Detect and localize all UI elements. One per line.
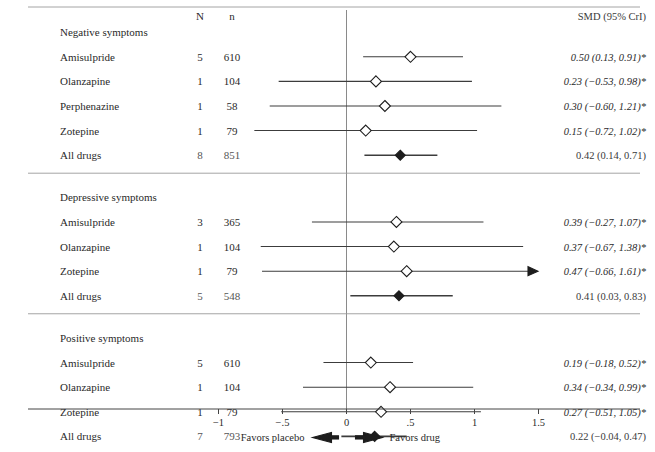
row-estimate: 0.23 (−0.53, 0.98)*	[564, 76, 647, 88]
effect-estimate-diamond	[370, 76, 381, 87]
favors-drug-label: Favors drug	[390, 432, 441, 443]
row-estimate: 0.47 (−0.66, 1.61)*	[564, 266, 647, 278]
column-header-n-studies: N	[196, 10, 204, 22]
ci-arrowhead-icon	[528, 267, 538, 276]
effect-estimate-diamond	[405, 51, 416, 62]
row-pooled-estimate: 0.22 (−0.04, 0.47)	[570, 431, 646, 443]
effect-estimate-diamond	[391, 216, 402, 227]
favors-placebo-label: Favors placebo	[241, 432, 305, 443]
row-estimate: 0.39 (−0.27, 1.07)*	[564, 217, 647, 229]
pooled-effect-diamond	[395, 150, 405, 160]
row-n-patients: 851	[224, 149, 241, 161]
group-title: Negative symptoms	[60, 26, 148, 38]
row-label: Amisulpride	[60, 216, 115, 228]
row-n-studies: 3	[197, 216, 203, 228]
x-axis-tick-label: −1	[213, 417, 224, 428]
effect-estimate-diamond	[401, 266, 412, 277]
row-estimate: 0.37 (−0.67, 1.38)*	[564, 242, 647, 254]
row-label: Amisulpride	[60, 51, 115, 63]
effect-estimate-diamond	[376, 406, 387, 417]
effect-estimate-diamond	[360, 125, 371, 136]
row-n-patients: 79	[227, 406, 239, 418]
row-n-patients: 365	[224, 216, 241, 228]
row-label: Zotepine	[60, 406, 99, 418]
row-n-studies: 1	[197, 265, 203, 277]
row-label: Zotepine	[60, 125, 99, 137]
row-label: Olanzapine	[60, 75, 110, 87]
row-estimate: 0.50 (0.13, 0.91)*	[571, 52, 647, 64]
effect-estimate-diamond	[365, 357, 376, 368]
row-n-studies: 1	[197, 406, 203, 418]
row-label: All drugs	[60, 290, 101, 302]
forest-plot: NnSMD (95% CrI)Negative symptomsAmisulpr…	[0, 0, 655, 452]
row-n-patients: 79	[227, 125, 239, 137]
row-n-studies: 5	[197, 51, 203, 63]
row-n-patients: 104	[224, 241, 241, 253]
row-n-studies: 5	[197, 290, 203, 302]
effect-estimate-diamond	[379, 100, 390, 111]
x-axis-tick-label: −.5	[276, 417, 290, 428]
row-pooled-estimate: 0.41 (0.03, 0.83)	[576, 291, 646, 303]
row-estimate: 0.19 (−0.18, 0.52)*	[564, 358, 647, 370]
row-pooled-estimate: 0.42 (0.14, 0.71)	[576, 150, 646, 162]
row-label: Olanzapine	[60, 241, 110, 253]
x-axis-tick-label: .5	[407, 417, 415, 428]
row-label: All drugs	[60, 430, 101, 442]
x-axis-tick-label: 1	[472, 417, 477, 428]
group-title: Positive symptoms	[60, 332, 143, 344]
effect-estimate-diamond	[388, 241, 399, 252]
row-n-patients: 79	[227, 265, 239, 277]
column-header-estimate: SMD (95% CrI)	[578, 11, 647, 23]
row-n-studies: 1	[197, 241, 203, 253]
row-n-patients: 793	[224, 430, 241, 442]
row-label: Amisulpride	[60, 357, 115, 369]
row-n-studies: 8	[197, 149, 203, 161]
forest-plot-canvas: NnSMD (95% CrI)Negative symptomsAmisulpr…	[0, 0, 655, 452]
row-n-patients: 610	[224, 357, 241, 369]
row-n-studies: 1	[197, 125, 203, 137]
pooled-effect-diamond	[394, 291, 404, 301]
row-label: All drugs	[60, 149, 101, 161]
row-n-studies: 1	[197, 75, 203, 87]
row-n-studies: 1	[197, 100, 203, 112]
row-estimate: 0.30 (−0.60, 1.21)*	[564, 101, 647, 113]
column-header-n-patients: n	[229, 10, 235, 22]
row-label: Perphenazine	[60, 100, 119, 112]
row-n-patients: 548	[224, 290, 241, 302]
row-n-patients: 610	[224, 51, 241, 63]
left-arrow-shaft-icon	[330, 436, 339, 439]
row-estimate: 0.15 (−0.72, 1.02)*	[564, 126, 647, 138]
row-n-studies: 7	[197, 430, 203, 442]
row-n-patients: 104	[224, 381, 241, 393]
row-label: Zotepine	[60, 265, 99, 277]
x-axis-tick-label: 0	[344, 417, 349, 428]
row-label: Olanzapine	[60, 381, 110, 393]
left-arrow-icon	[313, 433, 332, 443]
right-arrow-shaft-icon	[356, 436, 365, 439]
row-n-patients: 58	[227, 100, 239, 112]
group-title: Depressive symptoms	[60, 191, 157, 203]
row-n-studies: 5	[197, 357, 203, 369]
x-axis-tick-label: 1.5	[532, 417, 545, 428]
row-n-studies: 1	[197, 381, 203, 393]
row-n-patients: 104	[224, 75, 241, 87]
effect-estimate-diamond	[385, 382, 396, 393]
row-estimate: 0.34 (−0.34, 0.99)*	[564, 382, 647, 394]
